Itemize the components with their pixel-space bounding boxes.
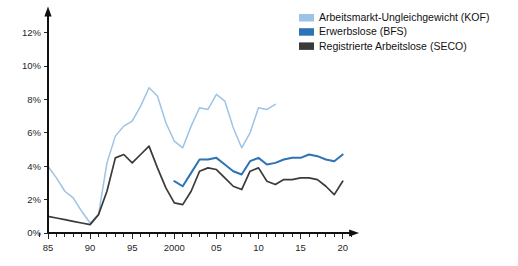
series-line-1 [48, 88, 275, 223]
legend-swatch [299, 14, 314, 22]
x-axis-tick-labels: 859095200005101520 [43, 242, 348, 253]
y-axis-tick-labels: 0%2%4%6%8%10%12% [22, 27, 42, 238]
x-axis-arrowhead [349, 229, 359, 236]
x-tick-label: 05 [211, 242, 222, 253]
y-tick-label: 0% [27, 227, 41, 238]
x-axis-minor-ticks [40, 233, 352, 239]
legend-swatch [299, 28, 314, 36]
y-tick-label: 10% [22, 60, 42, 71]
legend-label: Registrierte Arbeitslose (SECO) [319, 40, 467, 52]
y-tick-label: 6% [27, 127, 41, 138]
y-tick-label: 2% [27, 194, 41, 205]
y-tick-label: 8% [27, 94, 41, 105]
x-tick-label: 90 [85, 242, 96, 253]
legend-swatch [299, 42, 314, 50]
x-tick-label: 15 [295, 242, 306, 253]
y-axis-ticks [44, 33, 48, 233]
x-tick-label: 10 [253, 242, 264, 253]
unemployment-line-chart: 0%2%4%6%8%10%12% 859095200005101520 Arbe… [0, 0, 518, 266]
y-tick-label: 12% [22, 27, 42, 38]
data-series-group [48, 88, 343, 225]
chart-legend: Arbeitsmarkt-Ungleichgewicht (KOF)Erwerb… [299, 11, 489, 51]
legend-label: Erwerbslose (BFS) [319, 25, 407, 37]
y-axis-arrowhead [44, 7, 51, 17]
x-tick-label: 85 [43, 242, 54, 253]
legend-label: Arbeitsmarkt-Ungleichgewicht (KOF) [319, 11, 489, 23]
chart-canvas: 0%2%4%6%8%10%12% 859095200005101520 Arbe… [0, 0, 518, 266]
x-tick-label: 95 [127, 242, 138, 253]
y-tick-label: 4% [27, 161, 41, 172]
x-tick-label: 20 [337, 242, 348, 253]
x-tick-label: 2000 [164, 242, 185, 253]
